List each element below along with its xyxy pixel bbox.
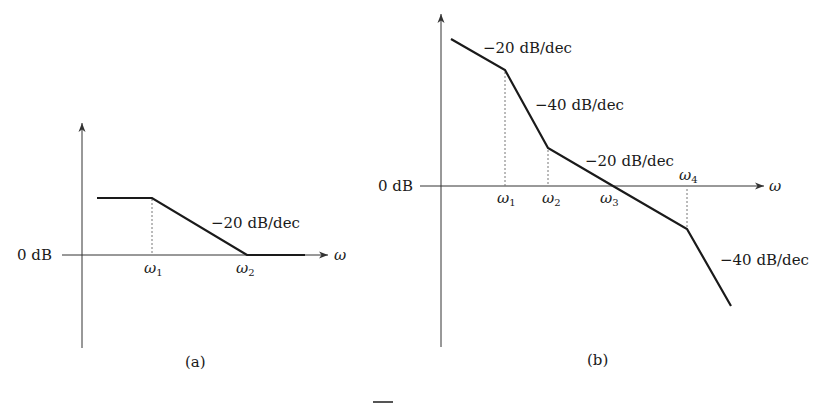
diagram-b-caption: (b) [587, 351, 608, 369]
diagram-b-w4-label: ω4 [679, 166, 698, 185]
diagram-b: 0 dB ω ω1 ω2 ω3 ω4 −20 dB/dec −40 dB/dec… [378, 14, 809, 369]
diagram-b-slope-label-3: −20 dB/dec [585, 152, 674, 170]
diagram-a-caption: (a) [185, 353, 206, 371]
diagram-b-slope-label-4: −40 dB/dec [720, 251, 809, 269]
diagram-b-w3-label: ω3 [600, 189, 619, 208]
diagram-b-w2-label: ω2 [542, 189, 561, 208]
bode-diagrams: 0 dB ω ω1 ω2 −20 dB/dec (a) 0 dB ω ω1 ω2… [0, 0, 837, 404]
diagram-a-w2-label: ω2 [236, 259, 255, 278]
bottom-mark [373, 401, 393, 403]
diagram-b-slope-label-1: −20 dB/dec [483, 39, 572, 57]
diagram-a-0db-label: 0 dB [17, 246, 52, 264]
diagram-b-0db-label: 0 dB [378, 177, 413, 195]
diagram-a-omega-axis-label: ω [334, 246, 346, 264]
diagram-a: 0 dB ω ω1 ω2 −20 dB/dec (a) [17, 123, 346, 371]
diagram-b-omega-axis-label: ω [769, 177, 781, 195]
diagram-b-w1-label: ω1 [497, 189, 516, 208]
diagram-b-slope-label-2: −40 dB/dec [535, 96, 624, 114]
diagram-a-w1-label: ω1 [144, 259, 163, 278]
diagram-a-slope-label: −20 dB/dec [211, 214, 300, 232]
